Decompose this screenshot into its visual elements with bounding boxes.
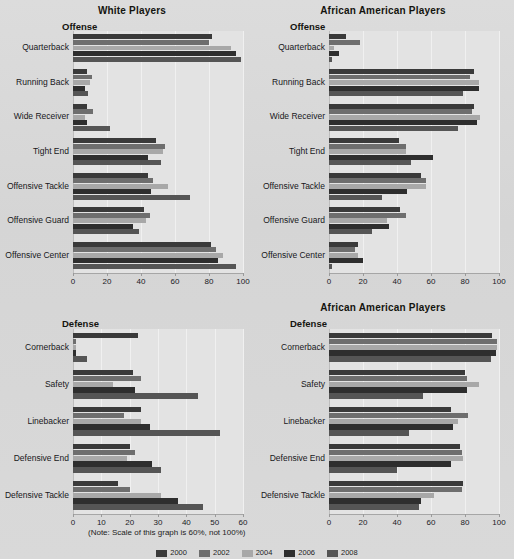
- legend-item-2004[interactable]: 2004: [242, 549, 273, 557]
- category-label-defense-african-american-2: Linebacker: [256, 417, 325, 426]
- legend-item-2000[interactable]: 2000: [156, 549, 187, 557]
- plot-area-offense-african-american: [329, 31, 500, 273]
- bar-offense-white-6-3: [73, 258, 218, 263]
- bar-defense-white-3-3: [73, 461, 152, 466]
- gridline: [186, 329, 187, 514]
- category-label-offense-african-american-1: Running Back: [256, 78, 325, 87]
- bar-offense-african-american-2-0: [329, 104, 474, 109]
- bar-offense-white-4-2: [73, 184, 168, 189]
- bar-offense-african-american-0-3: [329, 51, 339, 56]
- category-label-offense-white-4: Offensive Tackle: [0, 182, 69, 191]
- bar-offense-african-american-1-2: [329, 80, 479, 85]
- bar-defense-white-2-3: [73, 424, 150, 429]
- legend-swatch-icon: [284, 550, 295, 557]
- x-axis-line: [329, 514, 499, 515]
- x-tick-mark: [130, 514, 131, 517]
- bar-defense-african-american-3-2: [329, 456, 463, 461]
- x-tick-label: 20: [103, 277, 112, 286]
- bar-defense-white-2-0: [73, 407, 141, 412]
- x-tick-label: 30: [154, 518, 163, 527]
- category-label-offense-african-american-0: Quarterback: [256, 43, 325, 52]
- bar-offense-african-american-4-1: [329, 178, 426, 183]
- bar-offense-african-american-6-0: [329, 242, 358, 247]
- bar-defense-african-american-4-0: [329, 481, 463, 486]
- bar-offense-white-4-4: [73, 195, 190, 200]
- legend-item-2008[interactable]: 2008: [327, 549, 358, 557]
- gridline: [465, 31, 466, 273]
- bar-offense-white-5-4: [73, 229, 139, 234]
- category-label-defense-african-american-3: Defensive End: [256, 454, 325, 463]
- x-axis-offense-white: 020406080100: [73, 273, 243, 289]
- bar-offense-white-1-3: [73, 86, 85, 91]
- bar-defense-white-2-4: [73, 430, 220, 435]
- bar-offense-white-2-4: [73, 126, 110, 131]
- bar-defense-white-4-2: [73, 493, 161, 498]
- bar-offense-african-american-6-1: [329, 247, 355, 252]
- x-tick-mark: [431, 273, 432, 276]
- bar-offense-african-american-1-4: [329, 91, 463, 96]
- legend-label: 2006: [298, 549, 315, 557]
- x-tick-label: 0: [327, 277, 331, 286]
- x-tick-mark: [329, 273, 330, 276]
- bar-defense-white-1-3: [73, 387, 135, 392]
- bar-offense-white-1-4: [73, 91, 88, 96]
- category-label-defense-white-0: Cornerback: [0, 343, 69, 352]
- bar-offense-african-american-6-3: [329, 258, 363, 263]
- bar-defense-african-american-1-2: [329, 382, 479, 387]
- bar-defense-white-3-0: [73, 444, 130, 449]
- legend-label: 2004: [256, 549, 273, 557]
- x-tick-mark: [465, 514, 466, 517]
- x-tick-mark: [397, 514, 398, 517]
- x-tick-mark: [431, 514, 432, 517]
- chart-subtitle-offense-african-american: Offense: [290, 20, 325, 33]
- chart-title-offense-african-american: African American Players: [258, 4, 508, 17]
- category-label-offense-african-american-5: Offensive Guard: [256, 216, 325, 225]
- plot-area-defense-white: [73, 329, 244, 514]
- bar-defense-white-4-0: [73, 481, 118, 486]
- bar-offense-white-0-3: [73, 51, 236, 56]
- bar-defense-white-4-1: [73, 487, 130, 492]
- x-tick-label: 20: [359, 518, 368, 527]
- x-tick-mark: [499, 514, 500, 517]
- bar-defense-african-american-0-1: [329, 339, 497, 344]
- x-tick-label: 40: [393, 277, 402, 286]
- category-label-offense-african-american-3: Tight End: [256, 147, 325, 156]
- bar-offense-white-2-2: [73, 115, 85, 120]
- x-tick-label: 10: [97, 518, 106, 527]
- x-tick-mark: [107, 273, 108, 276]
- category-label-offense-white-3: Tight End: [0, 147, 69, 156]
- x-tick-label: 60: [427, 518, 436, 527]
- bar-offense-white-2-0: [73, 104, 87, 109]
- x-tick-label: 0: [327, 518, 331, 527]
- chart-subtitle-defense-african-american: Defense: [290, 317, 327, 330]
- bar-offense-african-american-5-3: [329, 224, 389, 229]
- legend-label: 2002: [213, 549, 230, 557]
- x-tick-mark: [141, 273, 142, 276]
- x-axis-line: [329, 273, 499, 274]
- x-tick-mark: [101, 514, 102, 517]
- bar-offense-african-american-2-2: [329, 115, 480, 120]
- bar-offense-white-6-0: [73, 242, 211, 247]
- gridline: [243, 329, 244, 514]
- bar-offense-white-1-2: [73, 80, 90, 85]
- x-tick-label: 60: [239, 518, 248, 527]
- gridline: [431, 31, 432, 273]
- legend-item-2006[interactable]: 2006: [284, 549, 315, 557]
- x-tick-label: 100: [236, 277, 249, 286]
- bar-offense-african-american-2-1: [329, 109, 472, 114]
- bar-offense-african-american-5-0: [329, 207, 400, 212]
- bar-offense-african-american-4-3: [329, 189, 407, 194]
- bar-offense-african-american-0-1: [329, 40, 360, 45]
- x-tick-mark: [329, 514, 330, 517]
- charts-container: White PlayersOffenseQuarterbackRunning B…: [0, 0, 514, 559]
- x-tick-mark: [243, 273, 244, 276]
- bar-defense-white-0-3: [73, 350, 76, 355]
- bar-offense-african-american-2-3: [329, 120, 477, 125]
- gridline: [209, 31, 210, 273]
- bar-defense-african-american-1-0: [329, 370, 465, 375]
- bar-defense-african-american-3-4: [329, 467, 397, 472]
- x-tick-mark: [243, 514, 244, 517]
- bar-defense-white-2-1: [73, 413, 124, 418]
- legend-item-2002[interactable]: 2002: [199, 549, 230, 557]
- bar-offense-african-american-3-0: [329, 138, 399, 143]
